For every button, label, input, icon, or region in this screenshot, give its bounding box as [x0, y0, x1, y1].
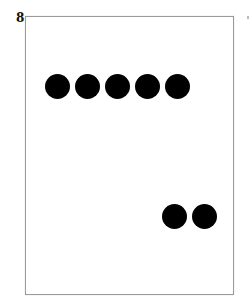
card-number-label: 8 [16, 11, 24, 25]
bottom-pair-dot [192, 204, 217, 229]
top-row-dot [135, 74, 160, 99]
top-row-dot [45, 74, 70, 99]
top-row-dot [105, 74, 130, 99]
top-row-dot [165, 74, 190, 99]
next-card-edge [247, 16, 249, 19]
top-row-dot [75, 74, 100, 99]
bottom-pair-dot [162, 204, 187, 229]
dot-card[interactable] [25, 16, 234, 295]
